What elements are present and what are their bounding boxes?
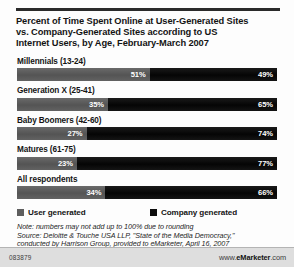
bar-group-baby-boomers: Baby Boomers (42-60) 27% 74% (17, 116, 278, 141)
legend-item-company-generated: Company generated (150, 208, 237, 217)
chart-title: Percent of Time Spent Online at User-Gen… (16, 16, 278, 50)
bar-segment-company-generated: 66% (105, 186, 277, 199)
bar-segment-company-generated: 77% (77, 157, 277, 170)
chart-notes: Note: numbers may not add up to 100% due… (17, 223, 278, 249)
emarketer-url: www.eMarketer.com (219, 253, 286, 262)
legend-swatch-icon (17, 209, 24, 216)
bar-category-label: Generation X (25-41) (17, 86, 278, 95)
stacked-bar: 23% 77% (17, 157, 277, 170)
stacked-bar: 27% 74% (17, 127, 277, 140)
legend-label: User generated (28, 208, 86, 217)
chart-title-line-3: Internet Users, by Age, February-March 2… (16, 38, 278, 49)
url-prefix: www. (219, 253, 236, 262)
url-brand: eMarketer (236, 253, 270, 262)
bar-category-label: Baby Boomers (42-60) (17, 116, 278, 125)
chart-footer: 083879 www.eMarketer.com (0, 247, 294, 267)
bar-segment-user-generated: 51% (17, 68, 150, 81)
stacked-bar: 34% 66% (17, 186, 277, 199)
chart-title-line-2: vs. Company-Generated Sites according to… (16, 27, 278, 38)
legend-label: Company generated (161, 208, 237, 217)
bar-segment-user-generated: 34% (17, 186, 105, 199)
chart-plot-area: Millennials (13-24) 51% 49% Generation X… (17, 57, 278, 205)
chart-legend: User generated Company generated (17, 208, 294, 217)
bar-segment-user-generated: 35% (17, 98, 108, 111)
bar-category-label: Matures (61-75) (17, 145, 278, 154)
bar-segment-user-generated: 23% (17, 157, 77, 170)
url-suffix: .com (270, 253, 286, 262)
chart-title-line-1: Percent of Time Spent Online at User-Gen… (16, 16, 278, 27)
bar-group-all-respondents: All respondents 34% 66% (17, 175, 278, 200)
bar-segment-company-generated: 65% (108, 98, 277, 111)
bar-category-label: Millennials (13-24) (17, 57, 278, 66)
legend-swatch-icon (150, 209, 157, 216)
title-top-rule (16, 8, 280, 11)
bar-segment-company-generated: 49% (150, 68, 277, 81)
chart-id: 083879 (9, 254, 32, 261)
emarketer-chart-card: Percent of Time Spent Online at User-Gen… (0, 0, 294, 267)
bar-group-millennials: Millennials (13-24) 51% 49% (17, 57, 278, 82)
bar-segment-user-generated: 27% (17, 127, 87, 140)
legend-item-user-generated: User generated (17, 208, 150, 217)
stacked-bar: 35% 65% (17, 98, 277, 111)
bar-category-label: All respondents (17, 175, 278, 184)
stacked-bar: 51% 49% (17, 68, 277, 81)
bar-group-matures: Matures (61-75) 23% 77% (17, 145, 278, 170)
bar-segment-company-generated: 74% (87, 127, 277, 140)
bar-group-generation-x: Generation X (25-41) 35% 65% (17, 86, 278, 111)
